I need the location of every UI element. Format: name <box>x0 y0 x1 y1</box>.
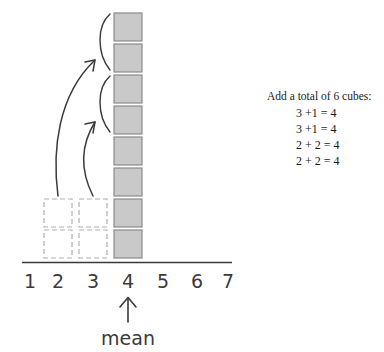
brace-top <box>100 14 110 70</box>
cube-filled <box>114 44 142 72</box>
cube-stack-filled <box>114 13 142 258</box>
diagram-canvas: 1 2 3 4 5 6 7 mean Add a total of 6 cube… <box>0 0 384 352</box>
note-equation: 2 + 2 = 4 <box>296 138 340 152</box>
axis-tick-4: 4 <box>122 270 134 292</box>
cube-filled <box>114 168 142 196</box>
note-title: Add a total of 6 cubes: <box>267 90 371 102</box>
mean-balancing-diagram: 1 2 3 4 5 6 7 mean Add a total of 6 cube… <box>0 0 384 352</box>
cube-filled <box>114 106 142 134</box>
mean-label: mean <box>101 327 155 349</box>
axis-tick-3: 3 <box>87 270 99 292</box>
axis-tick-5: 5 <box>157 270 169 292</box>
cube-filled <box>114 13 142 41</box>
cube-filled <box>114 230 142 258</box>
mean-pointer-arrow-icon <box>120 298 136 323</box>
cube-filled <box>114 199 142 227</box>
cube-stack-ghost-pos2 <box>44 199 72 258</box>
cube-ghost <box>79 230 107 258</box>
cube-ghost <box>44 230 72 258</box>
note-equation: 3 +1 = 4 <box>296 122 337 136</box>
axis-tick-1: 1 <box>24 270 36 292</box>
cube-stack-ghost-pos3 <box>79 199 107 258</box>
note-equation: 2 + 2 = 4 <box>296 154 340 168</box>
arrow-short-curve <box>84 122 95 196</box>
axis-tick-7: 7 <box>222 270 234 292</box>
brace-middle <box>100 76 110 132</box>
arrow-long-curve <box>56 60 95 196</box>
cube-ghost <box>79 199 107 227</box>
axis-tick-6: 6 <box>191 270 203 292</box>
cube-filled <box>114 137 142 165</box>
axis-tick-2: 2 <box>52 270 64 292</box>
cube-ghost <box>44 199 72 227</box>
cube-filled <box>114 75 142 103</box>
note-equation: 3 +1 = 4 <box>296 106 337 120</box>
